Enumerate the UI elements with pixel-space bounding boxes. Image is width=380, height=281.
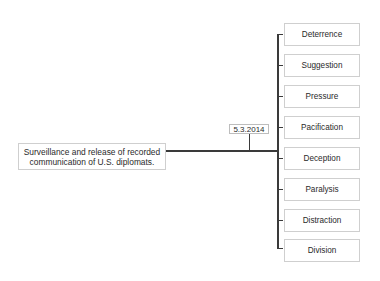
branch-tick	[277, 220, 283, 221]
outcome-distraction: Distraction	[284, 209, 360, 232]
branch-tick	[277, 127, 283, 128]
outcome-pacification: Pacification	[284, 116, 360, 139]
branch-tick	[277, 158, 283, 159]
outcome-pressure: Pressure	[284, 85, 360, 108]
main-connector	[166, 150, 278, 152]
branch-tick	[277, 34, 283, 35]
branch-tick	[277, 65, 283, 66]
outcome-deception: Deception	[284, 147, 360, 170]
source-event-box: Surveillance and release of recorded com…	[18, 143, 166, 170]
outcome-paralysis: Paralysis	[284, 178, 360, 201]
source-event-line2: communication of U.S. diplomats.	[24, 157, 160, 167]
branch-tick	[277, 248, 283, 249]
branch-tick	[277, 96, 283, 97]
branch-tick	[277, 189, 283, 190]
outcome-deterrence: Deterrence	[284, 23, 360, 46]
outcome-suggestion: Suggestion	[284, 54, 360, 77]
source-event-line1: Surveillance and release of recorded	[24, 147, 160, 157]
date-label: 5.3.2014	[229, 124, 269, 134]
bracket-vertical	[277, 34, 279, 249]
date-connector	[249, 134, 250, 150]
outcome-division: Division	[284, 239, 360, 262]
